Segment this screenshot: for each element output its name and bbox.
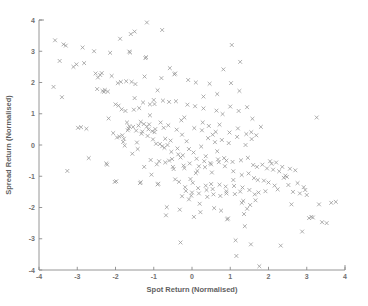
- y-tick-label: -1: [29, 173, 35, 180]
- figure-canvas: -4-3-2-101234 -4-3-2-101234 Spot Return …: [0, 0, 368, 306]
- scatter-plot: -4-3-2-101234 -4-3-2-101234 Spot Return …: [0, 0, 368, 306]
- y-axis-title: Spread Return (Normalised): [4, 95, 13, 195]
- x-tick-label: 2: [267, 273, 271, 280]
- y-tick-label: 0: [31, 142, 35, 149]
- y-tick-label: -4: [29, 267, 35, 274]
- plot-background: [0, 0, 368, 306]
- x-tick-label: 3: [305, 273, 309, 280]
- x-tick-label: 4: [343, 273, 347, 280]
- y-tick-label: 2: [31, 79, 35, 86]
- x-tick-label: 0: [190, 273, 194, 280]
- x-axis-title: Spot Return (Normalised): [147, 285, 238, 294]
- x-tick-label: 1: [228, 273, 232, 280]
- y-tick-label: 4: [31, 17, 35, 24]
- y-tick-label: -2: [29, 204, 35, 211]
- y-tick-label: 1: [31, 110, 35, 117]
- x-tick-label: -1: [151, 273, 157, 280]
- x-tick-label: -2: [112, 273, 118, 280]
- y-tick-label: 3: [31, 48, 35, 55]
- x-tick-label: -4: [36, 273, 42, 280]
- x-tick-label: -3: [74, 273, 80, 280]
- y-tick-label: -3: [29, 235, 35, 242]
